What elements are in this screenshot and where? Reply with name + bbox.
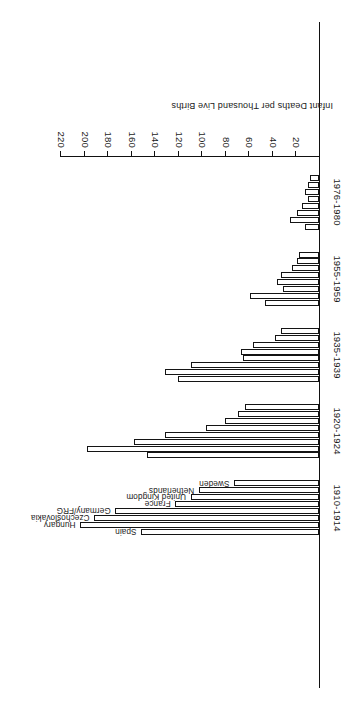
bar xyxy=(241,349,319,355)
bar xyxy=(310,175,318,181)
bar xyxy=(94,515,318,521)
bar xyxy=(281,328,319,334)
axis-tick-label: 40 xyxy=(268,137,279,148)
axis-tick-label: 160 xyxy=(127,132,138,148)
bar xyxy=(243,355,318,361)
bar xyxy=(115,508,318,514)
bar xyxy=(305,189,319,195)
bar xyxy=(191,494,319,500)
country-label-netherlands: Netherlands xyxy=(149,486,194,495)
bar xyxy=(265,300,319,306)
axis-tick xyxy=(131,151,132,157)
infant-mortality-bar-chart: 22020018016014012010080604020 SpainHunga… xyxy=(0,0,363,712)
bar xyxy=(297,210,318,216)
group-label-1910-1914: 1910-1914 xyxy=(332,484,343,531)
bar xyxy=(299,252,319,258)
axis-tick xyxy=(84,151,85,157)
axis-tick-label: 120 xyxy=(174,132,185,148)
bar xyxy=(308,196,319,202)
axis-tick-label: 220 xyxy=(56,132,67,148)
axis-tick-label: 80 xyxy=(221,137,232,148)
axis-tick-label: 100 xyxy=(197,132,208,148)
bar xyxy=(308,182,319,188)
bar xyxy=(275,335,318,341)
axis-tick xyxy=(248,151,249,157)
bar xyxy=(292,265,319,271)
axis-rule xyxy=(60,156,319,157)
bar xyxy=(87,446,318,452)
bar xyxy=(165,432,319,438)
bar xyxy=(281,272,319,278)
group-label-1935-1939: 1935-1939 xyxy=(332,331,343,378)
axis-tick-label: 180 xyxy=(103,132,114,148)
axis-title: Infant Deaths per Thousand Live Births xyxy=(171,101,333,111)
bar xyxy=(290,217,318,223)
axis-tick-label: 200 xyxy=(80,132,91,148)
axis-tick xyxy=(60,151,61,157)
bar xyxy=(234,480,319,486)
axis-tick xyxy=(272,151,273,157)
bar xyxy=(178,376,319,382)
bar xyxy=(141,529,318,535)
bar xyxy=(134,439,318,445)
bar xyxy=(199,487,319,493)
value-axis-line xyxy=(319,22,320,688)
bar xyxy=(147,452,319,458)
axis-tick xyxy=(154,151,155,157)
bar xyxy=(225,418,319,424)
axis-tick xyxy=(178,151,179,157)
bar xyxy=(165,369,319,375)
bar xyxy=(277,279,318,285)
country-label-germany-frg: Germany/FRG xyxy=(56,506,110,515)
bar xyxy=(245,404,319,410)
bar xyxy=(297,258,318,264)
axis-tick-label: 60 xyxy=(244,137,255,148)
bar xyxy=(305,224,319,230)
country-label-sweden: Sweden xyxy=(199,479,229,488)
bar xyxy=(191,362,319,368)
group-label-1955-1959: 1955-1959 xyxy=(332,255,343,302)
chart-canvas: 22020018016014012010080604020 SpainHunga… xyxy=(0,0,363,712)
bar xyxy=(253,342,319,348)
group-label-1976-1980: 1976-1980 xyxy=(332,179,343,226)
axis-tick-label: 20 xyxy=(291,137,302,148)
bar xyxy=(238,411,319,417)
group-label-1920-1924: 1920-1924 xyxy=(332,408,343,455)
plot-area: 22020018016014012010080604020 SpainHunga… xyxy=(62,22,320,688)
axis-tick xyxy=(201,151,202,157)
bar xyxy=(302,203,318,209)
country-label-spain: Spain xyxy=(115,527,136,536)
bar xyxy=(283,286,318,292)
axis-tick-label: 140 xyxy=(150,132,161,148)
bar xyxy=(250,293,318,299)
axis-tick xyxy=(225,151,226,157)
axis-tick xyxy=(295,151,296,157)
bar xyxy=(206,425,319,431)
axis-tick xyxy=(107,151,108,157)
bar xyxy=(175,501,318,507)
